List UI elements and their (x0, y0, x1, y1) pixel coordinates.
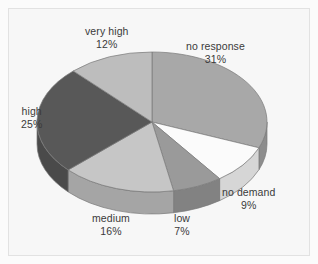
slice-label-no-demand: no demand 9% (222, 186, 275, 211)
pie-top-face-group (37, 52, 267, 192)
slice-label-no-demand-percent: 9% (222, 199, 275, 212)
slice-label-no-demand-name: no demand (222, 186, 275, 199)
slice-label-high: high 25% (21, 105, 42, 130)
slice-label-low: low 7% (174, 212, 190, 237)
slice-label-very-high-name: very high (85, 25, 129, 38)
pie-chart-graphic (0, 0, 318, 264)
slice-label-medium-percent: 16% (92, 225, 130, 238)
slice-label-high-percent: 25% (21, 118, 42, 131)
slice-label-very-high: very high 12% (85, 25, 129, 50)
slice-label-low-name: low (174, 212, 190, 225)
slice-label-medium: medium 16% (92, 212, 130, 237)
pie-chart-figure: no response 31% no demand 9% low 7% medi… (0, 0, 318, 264)
slice-label-high-name: high (21, 105, 42, 118)
slice-label-low-percent: 7% (174, 225, 190, 238)
slice-label-no-response-name: no response (186, 40, 245, 53)
slice-label-very-high-percent: 12% (85, 38, 129, 51)
slice-label-no-response: no response 31% (186, 40, 245, 65)
slice-label-no-response-percent: 31% (186, 53, 245, 66)
slice-label-medium-name: medium (92, 212, 130, 225)
